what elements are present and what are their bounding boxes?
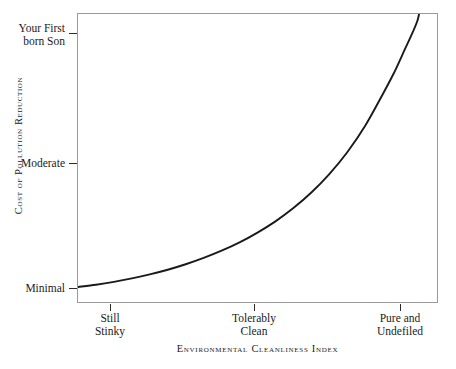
y-tick-label-minimal: Minimal — [25, 282, 65, 295]
x-axis-title: Environmental Cleanliness Index — [77, 343, 438, 354]
y-axis-title: Cost of Pollution Reduction — [13, 66, 24, 226]
cost-curve-path — [78, 14, 419, 287]
x-tick-label-still-stinky: Still Stinky — [55, 312, 165, 338]
chart-figure: Cost of Pollution Reduction Your First b… — [0, 0, 456, 369]
y-tick-label-moderate: Moderate — [21, 157, 65, 170]
y-tick-mark-moderate — [69, 163, 77, 164]
x-tick-label-tolerably-clean: Tolerably Clean — [199, 312, 309, 338]
x-tick-label-pure-and-undefiled: Pure and Undefiled — [345, 312, 455, 338]
cost-curve-svg — [78, 14, 437, 302]
plot-area — [77, 13, 438, 303]
x-tick-mark-pure-and-undefiled — [400, 304, 401, 311]
y-tick-mark-your-first-born-son — [69, 33, 77, 34]
y-tick-mark-minimal — [69, 288, 77, 289]
y-tick-label-your-first-born-son: Your First born Son — [19, 22, 65, 47]
x-tick-mark-tolerably-clean — [254, 304, 255, 311]
x-tick-mark-still-stinky — [110, 304, 111, 311]
